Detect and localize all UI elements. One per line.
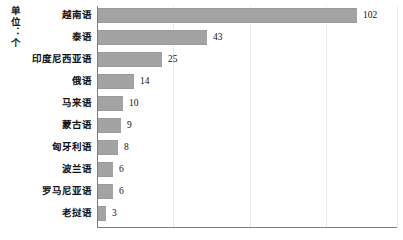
bar xyxy=(98,52,162,67)
category-label: 罗马尼亚语 xyxy=(0,184,92,199)
category-label: 匈牙利语 xyxy=(0,140,92,155)
category-label: 波兰语 xyxy=(0,162,92,177)
bar-value-label: 43 xyxy=(213,30,223,45)
bar-value-label: 102 xyxy=(363,8,377,23)
bar xyxy=(98,140,118,155)
bar-value-label: 6 xyxy=(119,162,124,177)
bar xyxy=(98,96,123,111)
bar xyxy=(98,74,134,89)
bar-value-label: 10 xyxy=(129,96,139,111)
bar xyxy=(98,8,357,23)
bar-value-label: 25 xyxy=(168,52,178,67)
gridline xyxy=(250,6,252,227)
bar-value-label: 14 xyxy=(140,74,150,89)
gridline xyxy=(326,6,328,227)
bar-value-label: 9 xyxy=(127,118,132,133)
bar-value-label: 3 xyxy=(112,206,117,221)
category-label: 越南语 xyxy=(0,8,92,23)
x-axis-line xyxy=(97,227,397,228)
bar xyxy=(98,118,121,133)
gridline xyxy=(397,6,399,227)
category-label: 俄语 xyxy=(0,74,92,89)
bar-chart: 单位：个 越南语102泰语43印度尼西亚语25俄语14马来语10蒙古语9匈牙利语… xyxy=(0,0,403,240)
bar xyxy=(98,30,207,45)
category-label: 蒙古语 xyxy=(0,118,92,133)
bar-value-label: 6 xyxy=(119,184,124,199)
category-label: 马来语 xyxy=(0,96,92,111)
bar xyxy=(98,206,106,221)
category-label: 印度尼西亚语 xyxy=(0,52,92,67)
bar xyxy=(98,162,113,177)
category-label: 老挝语 xyxy=(0,206,92,221)
category-label: 泰语 xyxy=(0,30,92,45)
bar xyxy=(98,184,113,199)
bar-value-label: 8 xyxy=(124,140,129,155)
